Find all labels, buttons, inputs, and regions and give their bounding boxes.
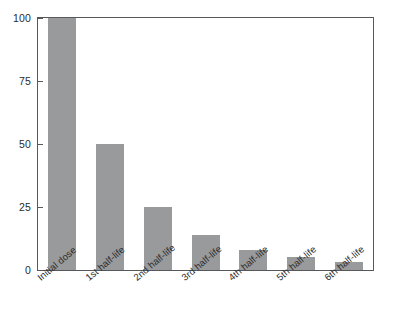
- bar-series: [38, 18, 373, 270]
- y-axis-tick-label: 25: [0, 202, 31, 213]
- y-axis-tick-label: 0: [0, 265, 31, 276]
- bar: [287, 257, 315, 270]
- bar: [192, 235, 220, 270]
- bar: [144, 207, 172, 270]
- y-axis-tick-label: 75: [0, 76, 31, 87]
- y-axis-tick-label: 50: [0, 139, 31, 150]
- bar: [239, 250, 267, 270]
- bar: [48, 18, 76, 270]
- bar: [96, 144, 124, 270]
- bar-chart: 0255075100 Initial dose1st half-life2nd …: [0, 0, 395, 326]
- y-axis-tick-label: 100: [0, 13, 31, 24]
- bar: [335, 262, 363, 270]
